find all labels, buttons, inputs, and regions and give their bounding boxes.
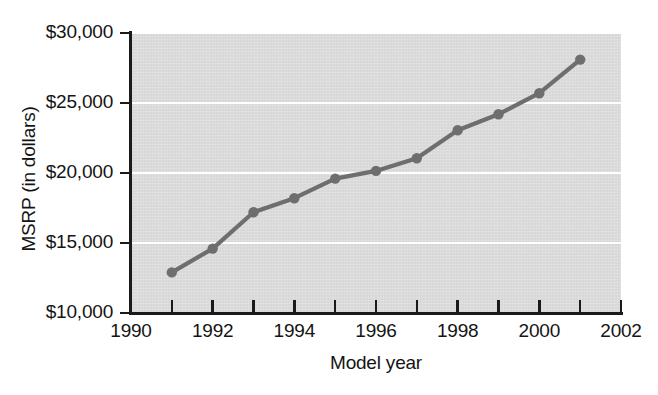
y-axis-tick — [120, 172, 132, 175]
y-axis-tick-label: $25,000 — [46, 91, 113, 113]
gridline — [131, 102, 621, 104]
x-axis-title: Model year — [131, 352, 621, 374]
x-axis-tick — [334, 300, 337, 314]
x-axis-tick — [497, 300, 500, 314]
y-axis-tick-label: $30,000 — [46, 21, 113, 43]
y-axis-tick-label: $10,000 — [46, 301, 113, 323]
x-axis-tick — [620, 300, 623, 314]
x-axis-tick-label: 1994 — [274, 320, 315, 342]
y-axis-tick-label: $20,000 — [46, 161, 113, 183]
x-axis-tick — [456, 300, 459, 314]
x-axis-tick — [416, 300, 419, 314]
x-axis-tick — [252, 300, 255, 314]
x-axis-tick — [211, 300, 214, 314]
x-axis-tick-label: 1998 — [437, 320, 478, 342]
x-axis-tick — [579, 300, 582, 314]
x-axis-tick — [375, 300, 378, 314]
x-axis-tick-label: 1996 — [355, 320, 396, 342]
y-axis-tick — [120, 32, 132, 35]
x-axis-tick-label: 2002 — [600, 320, 641, 342]
gridline — [131, 32, 621, 34]
y-axis-tick — [120, 102, 132, 105]
chart-figure: $10,000$15,000$20,000$25,000$30,000 1990… — [0, 0, 658, 395]
x-axis-tick-label: 2000 — [519, 320, 560, 342]
y-axis-tick-label: $15,000 — [46, 231, 113, 253]
y-axis-tick — [120, 242, 132, 245]
x-axis-tick — [538, 300, 541, 314]
y-axis-title: MSRP (in dollars) — [18, 64, 40, 294]
x-axis-tick-label: 1992 — [192, 320, 233, 342]
gridline — [131, 172, 621, 174]
x-axis-tick — [130, 300, 133, 314]
x-axis-tick-label: 1990 — [110, 320, 151, 342]
x-axis-tick — [171, 300, 174, 314]
x-axis-tick — [293, 300, 296, 314]
gridline — [131, 242, 621, 244]
